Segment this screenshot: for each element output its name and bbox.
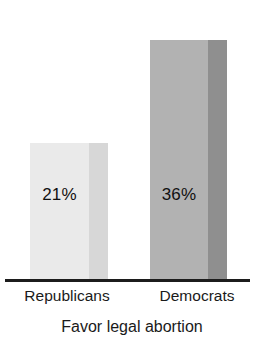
bar-face-republicans	[30, 143, 89, 280]
bar-shape-democrats: 36%	[150, 40, 227, 280]
bar-chart: 21% 36% Republicans Democrats Favor lega…	[0, 0, 264, 348]
category-axis-labels: Republicans Democrats	[0, 285, 264, 309]
bar-democrats: 36%	[150, 40, 227, 280]
bar-face-democrats	[150, 40, 208, 280]
bar-value-label-republicans: 21%	[30, 185, 89, 205]
plot-area: 21% 36%	[0, 0, 264, 281]
axis-baseline	[5, 279, 250, 282]
chart-caption: Favor legal abortion	[0, 316, 264, 338]
category-label-republicans: Republicans	[0, 285, 134, 307]
bar-shape-republicans: 21%	[30, 143, 108, 280]
bar-republicans: 21%	[30, 143, 108, 280]
bar-side-shading-republicans	[89, 143, 108, 280]
bar-value-label-democrats: 36%	[150, 185, 208, 205]
bar-side-shading-democrats	[208, 40, 227, 280]
category-label-democrats: Democrats	[134, 285, 260, 307]
